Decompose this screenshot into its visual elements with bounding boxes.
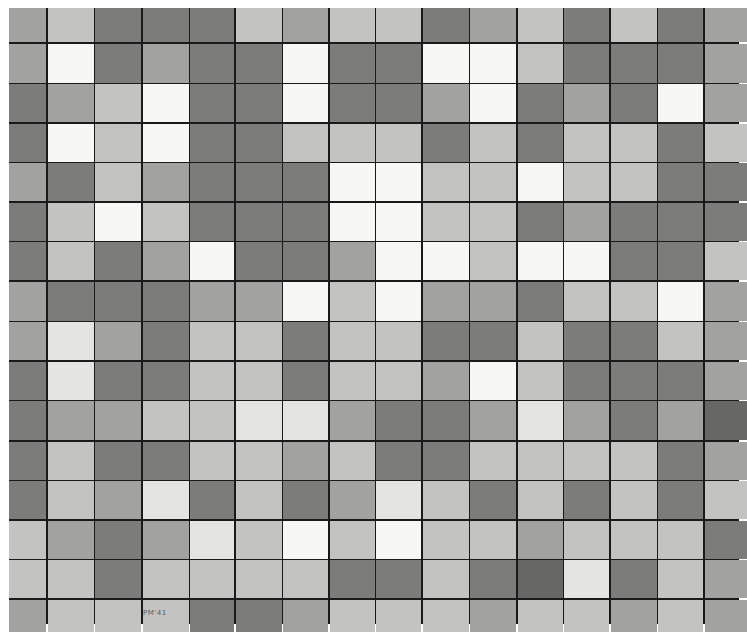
grid-cell bbox=[658, 560, 703, 598]
grid-cell bbox=[330, 322, 375, 360]
grid-cell bbox=[190, 282, 234, 321]
grid-cell bbox=[423, 242, 469, 280]
grid-cell bbox=[283, 600, 328, 632]
grid-cell bbox=[48, 481, 94, 519]
grid-cell bbox=[330, 600, 375, 632]
grid-cell bbox=[376, 442, 421, 480]
grid-cell bbox=[330, 362, 375, 400]
grid-cell bbox=[48, 401, 94, 440]
grid-cell bbox=[48, 322, 94, 360]
grid-cell bbox=[564, 401, 609, 440]
grid-cell bbox=[470, 322, 516, 360]
grid-cell bbox=[470, 362, 516, 400]
grid-cell bbox=[95, 282, 141, 321]
grid-cell bbox=[236, 124, 282, 162]
grid-cell bbox=[470, 521, 516, 559]
grid-cell bbox=[283, 84, 328, 122]
grid-cell bbox=[376, 203, 421, 241]
grid-cell bbox=[236, 600, 282, 632]
grid-cell bbox=[283, 163, 328, 201]
grid-cell bbox=[48, 560, 94, 598]
grid-cell bbox=[518, 521, 563, 559]
grid-cell bbox=[48, 124, 94, 162]
grid-cell bbox=[658, 203, 703, 241]
grid-cell bbox=[423, 84, 469, 122]
grid-cell bbox=[564, 84, 609, 122]
grid-cell bbox=[518, 44, 563, 83]
grid-cell bbox=[190, 401, 234, 440]
grid-cell bbox=[95, 8, 141, 42]
grid-cell bbox=[283, 44, 328, 83]
grid-cell bbox=[611, 481, 657, 519]
grid-cell bbox=[143, 401, 189, 440]
grid-cell bbox=[518, 362, 563, 400]
grid-cell bbox=[236, 481, 282, 519]
grid-cell bbox=[143, 322, 189, 360]
grid-cell bbox=[518, 282, 563, 321]
grid-cell bbox=[9, 442, 46, 480]
grid-cell bbox=[658, 282, 703, 321]
artist-signature: PM'41 bbox=[143, 609, 167, 617]
grid-cell bbox=[95, 203, 141, 241]
grid-cell bbox=[564, 282, 609, 321]
grid-cell bbox=[564, 203, 609, 241]
grid-cell bbox=[376, 401, 421, 440]
grid-cell bbox=[518, 84, 563, 122]
grid-cell bbox=[95, 242, 141, 280]
grid-cell bbox=[283, 481, 328, 519]
grid-cell bbox=[423, 322, 469, 360]
grid-cell bbox=[564, 322, 609, 360]
grid-cell bbox=[143, 481, 189, 519]
grid-cell bbox=[283, 401, 328, 440]
grid-cell bbox=[518, 163, 563, 201]
grid-cell bbox=[705, 203, 747, 241]
grid-cell bbox=[470, 203, 516, 241]
grid-cell bbox=[658, 242, 703, 280]
grid-cell bbox=[330, 481, 375, 519]
grid-cell bbox=[376, 521, 421, 559]
grid-cell bbox=[330, 8, 375, 42]
grid-cell bbox=[376, 560, 421, 598]
grid-cell bbox=[330, 521, 375, 559]
grid-cell bbox=[611, 84, 657, 122]
grid-cell bbox=[143, 282, 189, 321]
grid-cell bbox=[48, 203, 94, 241]
grid-cell bbox=[611, 322, 657, 360]
grid-cell bbox=[236, 282, 282, 321]
grid-cell bbox=[143, 84, 189, 122]
grid-cell bbox=[190, 8, 234, 42]
grid-cell bbox=[330, 401, 375, 440]
grid-cell bbox=[611, 124, 657, 162]
grid-cell bbox=[9, 282, 46, 321]
grid-cell bbox=[564, 600, 609, 632]
grid-cell bbox=[518, 322, 563, 360]
grid-cell bbox=[705, 282, 747, 321]
grid-cell bbox=[236, 322, 282, 360]
grid-cell bbox=[190, 203, 234, 241]
grid-cell bbox=[190, 521, 234, 559]
grid-cell bbox=[470, 44, 516, 83]
grid-cell bbox=[190, 242, 234, 280]
grid-cell bbox=[564, 362, 609, 400]
grid-cell bbox=[705, 560, 747, 598]
grid-cell bbox=[564, 481, 609, 519]
grid-cell bbox=[470, 8, 516, 42]
grid-cell bbox=[95, 560, 141, 598]
grid-cell bbox=[470, 124, 516, 162]
grid-cell bbox=[283, 124, 328, 162]
grid-cell bbox=[190, 44, 234, 83]
grid-cell bbox=[423, 163, 469, 201]
grid-cell bbox=[48, 44, 94, 83]
grid-cell bbox=[470, 282, 516, 321]
grid-cell bbox=[658, 44, 703, 83]
grid-cell bbox=[283, 282, 328, 321]
grid-cell bbox=[376, 282, 421, 321]
grid-cell bbox=[330, 203, 375, 241]
grid-cell bbox=[564, 442, 609, 480]
grid-cell bbox=[190, 322, 234, 360]
grid-cell bbox=[9, 203, 46, 241]
grid-cell bbox=[611, 401, 657, 440]
grid-cell bbox=[190, 124, 234, 162]
grid-cell bbox=[705, 124, 747, 162]
grid-cell bbox=[611, 242, 657, 280]
